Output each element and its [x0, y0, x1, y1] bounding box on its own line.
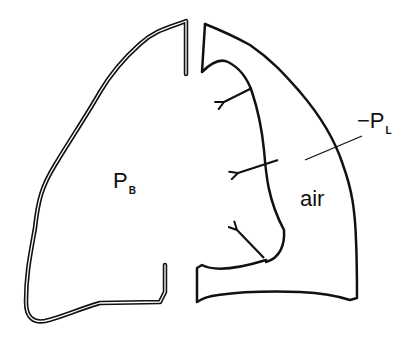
pl-main: P	[370, 108, 385, 133]
pressure-label-pb: PB	[113, 170, 135, 192]
pb-main: P	[113, 168, 128, 193]
left-lung-outline	[26, 21, 186, 321]
recoil-arrow-upper	[224, 88, 252, 102]
lung-pneumothorax-diagram	[0, 0, 403, 337]
pl-subscript: L	[386, 125, 392, 136]
pressure-label-neg-pl: −PL	[357, 110, 391, 132]
pb-subscript: B	[129, 185, 136, 196]
collapsed-right-lung-outline	[202, 24, 284, 262]
right-chest-wall-outline	[197, 24, 357, 302]
pl-prefix: −	[357, 108, 370, 133]
recoil-arrow-lower	[237, 230, 264, 258]
recoil-arrow-middle	[238, 160, 278, 173]
pleural-air-label: air	[300, 188, 324, 210]
